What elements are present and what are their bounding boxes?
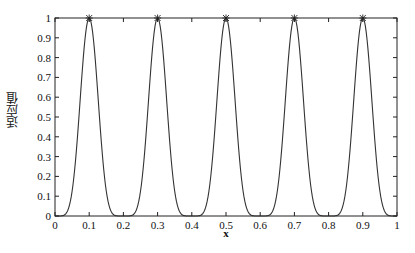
fitness-curve — [55, 18, 397, 216]
y-axis-label: 适应值 — [6, 92, 22, 128]
x-axis-ticks: 00.10.20.30.40.50.60.70.80.91 — [52, 18, 400, 231]
y-axis-ticks: 00.10.20.30.40.50.60.70.80.91 — [37, 12, 397, 222]
y-tick-label: 0.7 — [37, 71, 51, 83]
y-tick-label: 0.6 — [37, 91, 51, 103]
y-tick-label: 1 — [46, 12, 52, 24]
fitness-curve-line — [55, 18, 397, 216]
y-tick-label: 0.9 — [37, 32, 51, 44]
plot-frame — [55, 18, 397, 216]
plot-area — [55, 18, 397, 216]
x-tick-label: 0.3 — [151, 219, 165, 231]
x-tick-label: 1 — [394, 219, 400, 231]
y-tick-label: 0 — [46, 210, 52, 222]
x-tick-label: 0.9 — [356, 219, 370, 231]
x-tick-label: 0.4 — [185, 219, 199, 231]
x-tick-label: 0.2 — [117, 219, 131, 231]
y-tick-label: 0.8 — [37, 52, 51, 64]
x-axis-label: x — [223, 227, 229, 239]
x-tick-label: 0.7 — [288, 219, 302, 231]
x-tick-label: 0 — [52, 219, 58, 231]
x-tick-label: 0.6 — [253, 219, 267, 231]
line-chart: 00.10.20.30.40.50.60.70.80.91 00.10.20.3… — [0, 0, 415, 253]
y-tick-label: 0.3 — [37, 151, 51, 163]
y-tick-label: 0.4 — [37, 131, 51, 143]
y-tick-label: 0.5 — [37, 111, 51, 123]
x-tick-label: 0.8 — [322, 219, 336, 231]
x-tick-label: 0.1 — [82, 219, 96, 231]
y-tick-label: 0.2 — [37, 170, 51, 182]
y-tick-label: 0.1 — [37, 190, 51, 202]
